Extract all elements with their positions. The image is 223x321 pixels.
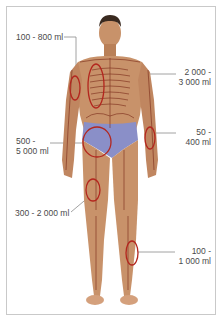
label-ribs: 2 000 - 3 000 ml (178, 67, 211, 87)
label-upper-arm: 100 - 800 ml (16, 32, 63, 42)
label-pelvis: 500 - 5 000 ml (16, 136, 49, 156)
label-lower-leg: 100 - 1 000 ml (178, 246, 211, 266)
anatomy-figure (0, 0, 223, 321)
leader-upper-arm (64, 37, 76, 72)
label-femur: 300 - 2 000 ml (15, 208, 69, 218)
label-forearm: 50 - 400 ml (185, 127, 211, 147)
